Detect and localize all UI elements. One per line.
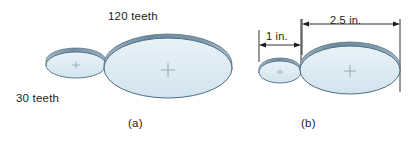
caption-part-a: (a)	[128, 117, 143, 129]
gear-figure: 120 teeth 30 teeth (a) 1 in. 2.5 in. (b)	[0, 0, 416, 144]
label-small-gear-teeth-a: 30 teeth	[16, 92, 59, 104]
dimension-1in-arrow-right	[294, 42, 301, 47]
part-b-small-gear	[259, 58, 301, 83]
label-dimension-1in: 1 in.	[266, 30, 288, 42]
dimension-25in-arrow-right	[393, 21, 400, 26]
part-a-small-gear	[46, 48, 106, 78]
part-a-group	[46, 34, 232, 98]
label-large-gear-teeth-a: 120 teeth	[108, 10, 158, 22]
label-dimension-25in: 2.5 in.	[330, 14, 361, 26]
part-b-large-gear	[300, 42, 400, 94]
part-a-large-gear	[104, 34, 232, 98]
dimension-1in-arrow-left	[259, 42, 266, 47]
caption-part-b: (b)	[301, 117, 316, 129]
dimension-25in-arrow-left	[302, 21, 309, 26]
